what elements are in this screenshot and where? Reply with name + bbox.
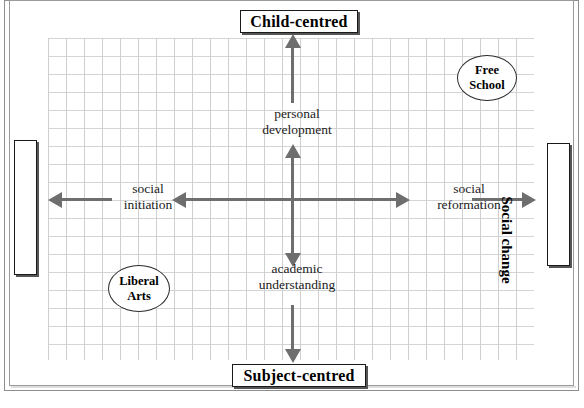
node-liberal-arts-line2: Arts	[119, 289, 159, 304]
arrowhead-down-bottom-icon	[285, 349, 301, 363]
arrowhead-up-top-icon	[285, 34, 301, 48]
label-academic-understanding: academic understanding	[230, 261, 364, 294]
label-academic-understanding-line2: understanding	[230, 277, 364, 293]
label-social-initiation: social initiation	[100, 181, 196, 214]
label-social-initiation-line2: initiation	[100, 197, 196, 213]
node-free-school-line2: School	[469, 78, 504, 93]
label-personal-development-line1: personal	[237, 106, 357, 122]
arrowhead-up-center-icon	[285, 144, 301, 158]
node-free-school: Free School	[457, 55, 517, 101]
pole-label-social-change: Social change	[547, 143, 570, 266]
figure-page: Child-centred Subject-centred Social acc…	[0, 0, 584, 408]
pole-label-social-acceptance: Social acceptance	[14, 140, 37, 275]
label-personal-development: personal development	[237, 106, 357, 139]
arrowhead-left-outer-icon	[48, 192, 62, 208]
label-personal-development-line2: development	[237, 122, 357, 138]
axis-vertical-center-shaft	[291, 158, 294, 253]
label-social-initiation-line1: social	[100, 181, 196, 197]
axis-up-top-shaft	[291, 48, 294, 103]
label-social-reformation-line2: reformation	[414, 197, 524, 213]
label-social-reformation: social reformation	[414, 181, 524, 214]
pole-label-subject-centred: Subject-centred	[232, 364, 366, 387]
node-free-school-line1: Free	[469, 63, 504, 78]
axis-left-inner-shaft	[186, 198, 292, 201]
node-liberal-arts-line1: Liberal	[119, 274, 159, 289]
arrowhead-right-inner-icon	[396, 192, 410, 208]
node-liberal-arts: Liberal Arts	[108, 265, 170, 312]
axis-right-inner-shaft	[291, 198, 396, 201]
axis-down-bottom-shaft	[291, 305, 294, 349]
label-social-reformation-line1: social	[414, 181, 524, 197]
pole-label-child-centred: Child-centred	[240, 10, 358, 33]
arrowhead-right-outer-icon	[522, 192, 536, 208]
label-academic-understanding-line1: academic	[230, 261, 364, 277]
